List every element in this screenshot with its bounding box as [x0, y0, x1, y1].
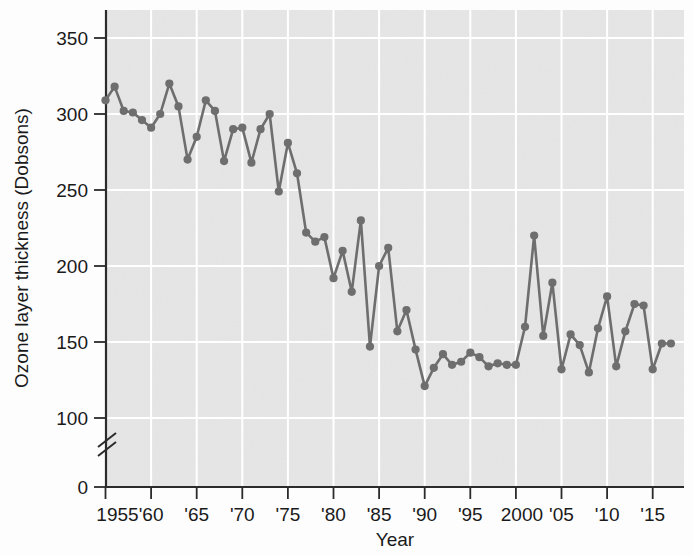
x-tick-label: '85 [367, 504, 392, 525]
data-point [658, 339, 666, 347]
x-tick-label: '80 [321, 504, 346, 525]
x-tick-label: '60 [139, 504, 164, 525]
data-point [284, 139, 292, 147]
data-point [402, 306, 410, 314]
data-point [256, 125, 264, 133]
line-chart-svg: 0100150200250300350 1955'60'65'70'75'80'… [0, 0, 693, 556]
data-point [457, 358, 465, 366]
data-point [357, 216, 365, 224]
data-point [147, 124, 155, 132]
data-point [576, 341, 584, 349]
data-point [421, 382, 429, 390]
data-point [183, 156, 191, 164]
x-tick-label: '10 [595, 504, 620, 525]
data-point [129, 108, 137, 116]
data-point [512, 361, 520, 369]
y-tick-label: 350 [56, 28, 88, 49]
data-point [603, 292, 611, 300]
data-point [430, 364, 438, 372]
data-point [348, 288, 356, 296]
data-point [339, 247, 347, 255]
y-tick-label: 150 [56, 332, 88, 353]
data-point [329, 274, 337, 282]
data-point [639, 301, 647, 309]
data-point [165, 80, 173, 88]
data-point [530, 232, 538, 240]
data-point [311, 238, 319, 246]
x-tick-label: '05 [549, 504, 574, 525]
y-tick-label: 0 [77, 477, 88, 498]
data-point [448, 361, 456, 369]
data-point [475, 353, 483, 361]
data-point [439, 350, 447, 358]
y-tick-label: 200 [56, 256, 88, 277]
data-point [667, 339, 675, 347]
data-point [567, 330, 575, 338]
data-point [366, 342, 374, 350]
data-point [174, 102, 182, 110]
data-point [594, 324, 602, 332]
data-point [585, 368, 593, 376]
data-point [238, 124, 246, 132]
ozone-thickness-chart-figure: 0100150200250300350 1955'60'65'70'75'80'… [0, 0, 693, 556]
data-point [521, 323, 529, 331]
data-point [630, 300, 638, 308]
data-point [494, 359, 502, 367]
data-point [138, 116, 146, 124]
data-point [384, 244, 392, 252]
data-point [266, 110, 274, 118]
data-point [557, 365, 565, 373]
data-point [202, 96, 210, 104]
data-point [320, 233, 328, 241]
data-point [548, 279, 556, 287]
x-tick-label: 2000 [501, 504, 543, 525]
data-point [275, 187, 283, 195]
data-point [621, 327, 629, 335]
x-tick-label: '95 [458, 504, 483, 525]
x-tick-label: '65 [184, 504, 209, 525]
y-tick-label: 300 [56, 104, 88, 125]
x-axis-title: Year [376, 529, 415, 550]
data-point [484, 362, 492, 370]
data-point [539, 332, 547, 340]
data-point [293, 169, 301, 177]
paper-grain-texture [106, 10, 684, 487]
data-point [466, 349, 474, 357]
data-point [101, 96, 109, 104]
data-point [649, 365, 657, 373]
y-tick-label: 250 [56, 180, 88, 201]
data-point [503, 361, 511, 369]
data-point [375, 262, 383, 270]
y-axis-title: Ozone layer thickness (Dobsons) [11, 108, 32, 388]
data-point [111, 83, 119, 91]
data-point [120, 107, 128, 115]
data-point [229, 125, 237, 133]
x-tick-label: '90 [412, 504, 437, 525]
data-point [193, 133, 201, 141]
data-point [612, 362, 620, 370]
data-point [156, 110, 164, 118]
data-point [393, 327, 401, 335]
data-point [211, 107, 219, 115]
data-point [220, 157, 228, 165]
data-point [411, 346, 419, 354]
x-tick-label: '70 [230, 504, 255, 525]
x-tick-label: 1955 [96, 504, 138, 525]
x-tick-label: '15 [640, 504, 665, 525]
x-tick-label: '75 [276, 504, 301, 525]
y-tick-label: 100 [56, 408, 88, 429]
data-point [302, 228, 310, 236]
data-point [247, 159, 255, 167]
